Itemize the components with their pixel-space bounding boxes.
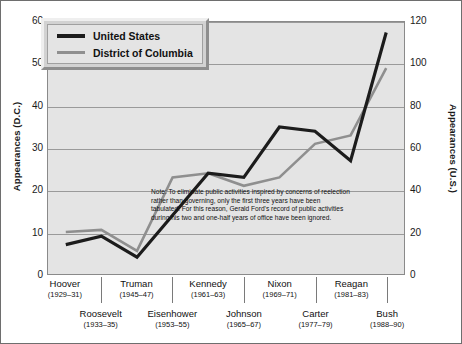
x-axis-label-roosevelt: Roosevelt(1933–35) — [65, 308, 137, 330]
x-axis-label-hoover: Hoover(1929–31) — [29, 278, 101, 300]
legend-swatch-district-of-columbia — [57, 51, 85, 54]
x-axis-label-johnson: Johnson(1965–67) — [208, 308, 280, 330]
x-label-name: Carter — [280, 308, 352, 320]
legend-item-district-of-columbia: District of Columbia — [57, 47, 202, 59]
x-axis-label-kennedy: Kennedy(1961–63) — [172, 278, 244, 300]
y-tick-right: 80 — [410, 101, 440, 111]
x-label-years: (1988–90) — [351, 320, 423, 330]
x-label-years: (1933–35) — [65, 320, 137, 330]
y-tick-right: 20 — [410, 228, 440, 238]
y-tick-left: 60 — [17, 16, 43, 26]
x-label-years: (1945–47) — [101, 290, 173, 300]
x-label-years: (1953–55) — [136, 320, 208, 330]
y-axis-title-right: Appearances (U.S.) — [448, 89, 459, 209]
y-tick-left: 10 — [17, 228, 43, 238]
x-label-name: Kennedy — [172, 278, 244, 290]
x-axis-separator — [316, 277, 317, 303]
x-label-name: Hoover — [29, 278, 101, 290]
x-label-years: (1981–83) — [315, 290, 387, 300]
x-label-years: (1961–63) — [172, 290, 244, 300]
y-tick-left: 50 — [17, 58, 43, 68]
chart-note: Note: To eliminate public activities ins… — [151, 188, 351, 222]
y-tick-left: 30 — [17, 143, 43, 153]
series-line-district-of-columbia — [66, 68, 386, 251]
x-axis-label-carter: Carter(1977–79) — [280, 308, 352, 330]
x-axis-separator — [387, 277, 388, 303]
y-tick-right: 0 — [410, 270, 440, 280]
x-label-years: (1929–31) — [29, 290, 101, 300]
y-tick-right: 60 — [410, 143, 440, 153]
x-axis-label-reagan: Reagan(1981–83) — [315, 278, 387, 300]
x-axis-label-eisenhower: Eisenhower(1953–55) — [136, 308, 208, 330]
x-label-name: Roosevelt — [65, 308, 137, 320]
chart-frame: Appearances (D.C.) Appearances (U.S.) 01… — [0, 0, 462, 344]
y-axis-ticks-right: 020406080100120 — [410, 1, 444, 344]
legend-swatch-united-states — [57, 34, 85, 38]
x-label-name: Johnson — [208, 308, 280, 320]
y-tick-right: 120 — [410, 16, 440, 26]
x-label-name: Truman — [101, 278, 173, 290]
legend-label-united-states: United States — [93, 30, 160, 42]
x-axis-label-truman: Truman(1945–47) — [101, 278, 173, 300]
x-axis-label-nixon: Nixon(1969–71) — [244, 278, 316, 300]
x-label-years: (1965–67) — [208, 320, 280, 330]
y-tick-right: 40 — [410, 185, 440, 195]
legend-item-united-states: United States — [57, 30, 202, 42]
x-label-name: Reagan — [315, 278, 387, 290]
x-axis-separator — [244, 277, 245, 303]
x-label-name: Bush — [351, 308, 423, 320]
x-axis-separator — [101, 277, 102, 303]
x-axis-labels: Hoover(1929–31)Roosevelt(1933–35)Truman(… — [47, 277, 405, 343]
y-tick-left: 20 — [17, 185, 43, 195]
x-label-years: (1977–79) — [280, 320, 352, 330]
x-label-name: Eisenhower — [136, 308, 208, 320]
x-axis-label-bush: Bush(1988–90) — [351, 308, 423, 330]
x-label-years: (1969–71) — [244, 290, 316, 300]
y-tick-right: 100 — [410, 58, 440, 68]
legend-inner: United States District of Columbia — [47, 24, 203, 64]
x-axis-separator — [172, 277, 173, 303]
x-label-name: Nixon — [244, 278, 316, 290]
legend: United States District of Columbia — [41, 18, 209, 70]
legend-label-district-of-columbia: District of Columbia — [93, 47, 193, 59]
y-tick-left: 40 — [17, 101, 43, 111]
